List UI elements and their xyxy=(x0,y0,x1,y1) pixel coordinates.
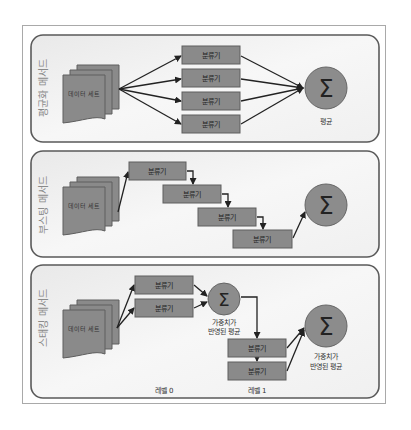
classifier-box: 분류기 xyxy=(182,115,240,133)
svg-text:분류기: 분류기 xyxy=(253,235,271,244)
dataset-label: 데이터 세트 xyxy=(68,90,100,98)
classifier-box: 분류기 xyxy=(228,362,286,380)
dataset-icon: 데이터 세트 xyxy=(63,300,119,358)
ensemble-methods-diagram: 평균화 메서드 데이터 세트 분류기 분류기 분류기 분류기 xyxy=(0,0,411,430)
sigma-icon: Σ xyxy=(305,305,347,347)
sigma-icon: Σ xyxy=(305,184,347,226)
panel-stacking: 스태킹 메서드 데이터 세트 분류기 분류기 Σ 가중치가 xyxy=(31,265,379,398)
svg-text:분류기: 분류기 xyxy=(202,51,220,60)
svg-text:분류기: 분류기 xyxy=(202,120,220,129)
combiner-label: 평균 xyxy=(320,117,333,126)
sigma-icon: Σ xyxy=(305,67,347,109)
svg-text:분류기: 분류기 xyxy=(148,167,166,176)
sigma-icon: Σ xyxy=(208,283,240,315)
svg-text:Σ: Σ xyxy=(318,313,333,341)
classifier-box: 분류기 xyxy=(135,299,193,317)
svg-text:분류기: 분류기 xyxy=(155,304,173,313)
classifier-box: 분류기 xyxy=(182,92,240,110)
panel-averaging: 평균화 메서드 데이터 세트 분류기 분류기 분류기 분류기 xyxy=(31,35,379,142)
classifier-box: 분류기 xyxy=(233,230,292,248)
combiner-label: 가중치가 xyxy=(314,352,339,361)
dataset-icon: 데이터 세트 xyxy=(63,177,119,235)
dataset-icon: 데이터 세트 xyxy=(63,65,119,123)
panel-label-boosting: 부스팅 메서드 xyxy=(38,176,49,233)
level-1-label: 레벨 1 xyxy=(248,386,267,395)
svg-text:분류기: 분류기 xyxy=(248,344,266,353)
svg-text:Σ: Σ xyxy=(218,289,229,310)
classifier-box: 분류기 xyxy=(228,339,286,357)
panel-label-stacking: 스태킹 메서드 xyxy=(38,289,49,346)
classifier-box: 분류기 xyxy=(135,276,193,294)
dataset-label: 데이터 세트 xyxy=(68,325,100,333)
dataset-label: 데이터 세트 xyxy=(68,202,100,210)
combiner-label: 반영된 평균 xyxy=(310,362,343,371)
svg-text:분류기: 분류기 xyxy=(202,97,220,106)
panel-label-averaging: 평균화 메서드 xyxy=(38,59,49,116)
classifier-box: 분류기 xyxy=(182,46,240,64)
svg-text:Σ: Σ xyxy=(318,192,333,220)
svg-text:분류기: 분류기 xyxy=(218,213,236,222)
svg-text:분류기: 분류기 xyxy=(202,74,220,83)
classifier-box: 분류기 xyxy=(198,208,256,226)
svg-text:분류기: 분류기 xyxy=(155,281,173,290)
svg-text:분류기: 분류기 xyxy=(183,190,201,199)
classifier-box: 분류기 xyxy=(182,69,240,87)
level-0-label: 레벨 0 xyxy=(155,386,174,395)
classifier-box: 분류기 xyxy=(163,185,221,203)
svg-text:분류기: 분류기 xyxy=(248,367,266,376)
svg-text:Σ: Σ xyxy=(318,75,333,103)
panel-boosting: 부스팅 메서드 데이터 세트 분류기 분류기 분류기 분류기 xyxy=(31,151,379,257)
combiner-label: 가중치가 xyxy=(212,318,237,327)
combiner-label: 반영된 평균 xyxy=(208,327,241,336)
classifier-box: 분류기 xyxy=(129,162,186,180)
